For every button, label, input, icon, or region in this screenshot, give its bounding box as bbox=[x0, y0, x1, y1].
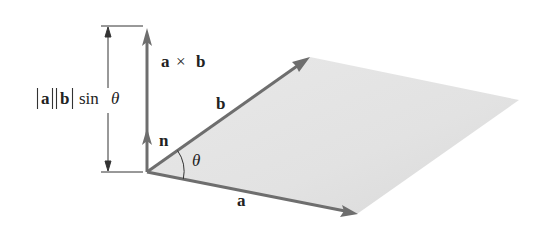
label-angle: θ bbox=[192, 151, 200, 170]
magnitude-a: a bbox=[41, 89, 50, 108]
magnitude-b: b bbox=[60, 89, 69, 108]
dimension-arrow-down-icon bbox=[105, 161, 111, 171]
cross-product-diagram: a × b n b a θ a b sin θ bbox=[0, 0, 544, 227]
dimension-arrow-up-icon bbox=[105, 27, 111, 37]
label-cross-product: a × b bbox=[161, 52, 205, 71]
label-unit-normal: n bbox=[159, 131, 169, 150]
cross-label-b: b bbox=[196, 52, 205, 71]
parallelogram-plane bbox=[147, 57, 519, 214]
magnitude-sin: sin bbox=[79, 89, 99, 108]
cross-label-a: a bbox=[161, 52, 170, 71]
cross-product-vector bbox=[142, 28, 152, 172]
label-vector-b: b bbox=[216, 94, 225, 113]
cross-label-times: × bbox=[176, 52, 186, 71]
magnitude-dimension bbox=[101, 26, 143, 172]
magnitude-theta: θ bbox=[111, 89, 119, 108]
label-magnitude: a b sin θ bbox=[38, 88, 120, 109]
label-vector-a: a bbox=[237, 191, 246, 210]
